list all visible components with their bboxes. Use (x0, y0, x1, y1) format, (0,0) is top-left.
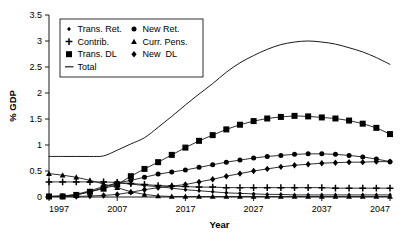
data-point-marker (128, 189, 133, 195)
data-point-marker (306, 151, 311, 156)
data-point-marker (333, 152, 338, 157)
data-point-marker (265, 154, 270, 159)
data-point-marker (318, 184, 325, 191)
data-point-marker (278, 164, 283, 170)
y-tick-label: 1.5 (29, 114, 42, 124)
x-tick-label: 2007 (107, 204, 127, 214)
series-new-dl (46, 158, 392, 199)
data-point-marker (291, 184, 298, 191)
data-point-marker (210, 162, 215, 167)
data-point-marker (183, 167, 188, 172)
y-tick-label: 2.5 (29, 62, 42, 72)
data-point-marker (73, 179, 80, 186)
y-tick-label: 3 (37, 36, 42, 46)
legend-label: Contrib. (78, 37, 110, 47)
chart-plot-area: 00.511.522.533.5199720072017202720372047… (0, 0, 405, 250)
chart-legend: Trans. Ret.Contrib.Trans. DLTotalNew Ret… (60, 19, 203, 77)
data-point-marker (292, 152, 297, 157)
data-point-marker (346, 118, 352, 124)
data-point-marker (346, 185, 353, 192)
data-point-marker (306, 161, 311, 167)
data-point-marker (251, 168, 256, 174)
y-axis-title: % GDP (7, 90, 18, 122)
data-point-marker (264, 115, 270, 121)
data-point-marker (197, 165, 202, 170)
data-point-marker (142, 175, 147, 180)
data-point-marker (387, 158, 392, 164)
data-point-marker (196, 179, 201, 185)
x-tick-label: 1997 (49, 204, 69, 214)
data-point-marker (319, 114, 325, 120)
x-tick-label: 2017 (175, 204, 195, 214)
data-point-marker (373, 125, 379, 131)
x-tick-label: 2047 (370, 204, 390, 214)
data-point-marker (346, 159, 351, 165)
data-point-marker (223, 126, 229, 132)
legend-label: Trans. DL (78, 49, 117, 59)
data-point-marker (128, 178, 133, 183)
series-line (49, 174, 390, 197)
data-point-marker (265, 166, 270, 172)
data-point-marker (305, 113, 311, 119)
data-point-marker (59, 179, 66, 186)
data-point-marker (46, 179, 53, 186)
data-point-marker (332, 115, 338, 121)
x-tick-label: 2037 (312, 204, 332, 214)
y-tick-label: 0.5 (29, 166, 42, 176)
x-axis-title: Year (209, 219, 229, 230)
data-point-marker (141, 166, 147, 172)
data-point-marker (292, 113, 298, 119)
data-point-marker (169, 152, 175, 158)
data-point-marker (333, 159, 338, 165)
data-point-marker (359, 185, 366, 192)
data-point-marker (224, 173, 229, 179)
legend-marker-circle (132, 27, 137, 32)
data-point-marker (332, 185, 339, 192)
data-point-marker (101, 192, 106, 198)
data-point-marker (292, 162, 297, 168)
data-point-marker (387, 131, 393, 137)
legend-label: Curr. Pens. (143, 37, 188, 47)
data-point-marker (250, 184, 257, 191)
data-point-marker (251, 118, 257, 124)
x-tick-label: 2027 (244, 204, 264, 214)
y-tick-label: 2 (37, 88, 42, 98)
data-point-marker (115, 180, 120, 185)
data-point-marker (210, 132, 216, 138)
legend-label: New Ret. (143, 24, 180, 34)
legend-label: Trans. Ret. (78, 24, 122, 34)
series-line (49, 154, 390, 197)
data-point-marker (360, 121, 366, 127)
series-new-ret (47, 151, 393, 199)
data-point-marker (373, 185, 380, 192)
data-point-marker (360, 154, 365, 159)
data-point-marker (237, 122, 243, 128)
data-point-marker (224, 160, 229, 165)
data-point-marker (182, 145, 188, 151)
data-point-marker (278, 153, 283, 158)
data-point-marker (209, 184, 216, 191)
data-point-marker (156, 172, 161, 177)
data-point-marker (237, 184, 244, 191)
legend-label: Total (78, 62, 97, 72)
data-point-marker (347, 153, 352, 158)
data-point-marker (387, 185, 394, 192)
y-tick-label: 0 (37, 192, 42, 202)
data-point-marker (264, 184, 271, 191)
data-point-marker (251, 156, 256, 161)
y-tick-label: 3.5 (29, 10, 42, 20)
data-point-marker (196, 138, 202, 144)
data-point-marker (278, 114, 284, 120)
data-point-marker (319, 160, 324, 166)
data-point-marker (210, 176, 215, 182)
data-point-marker (223, 184, 230, 191)
data-point-marker (277, 184, 284, 191)
data-point-marker (169, 170, 174, 175)
data-point-marker (360, 159, 365, 165)
data-point-marker (237, 170, 242, 176)
data-point-marker (305, 184, 312, 191)
data-point-marker (142, 187, 147, 193)
legend-label: New DL (143, 49, 178, 59)
series-line (49, 162, 390, 197)
data-point-marker (155, 159, 161, 165)
